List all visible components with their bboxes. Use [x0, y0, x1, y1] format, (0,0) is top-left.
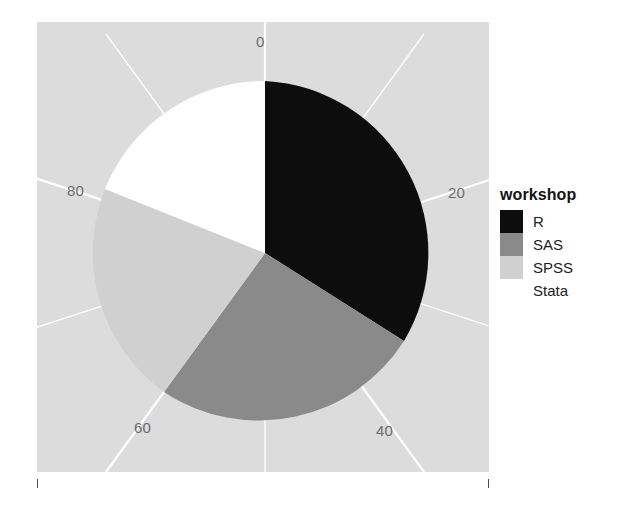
legend-label-stata: Stata — [533, 282, 568, 299]
legend-swatch-r — [500, 210, 523, 233]
axis-tick-label-40: 40 — [376, 422, 393, 439]
pie-slices — [93, 81, 429, 421]
axis-tick-label-0: 0 — [256, 33, 265, 50]
legend-item-sas[interactable]: SAS — [500, 233, 615, 256]
legend-swatch-spss — [500, 256, 523, 279]
axis-tick-label-80: 80 — [67, 182, 84, 199]
axis-tick-label-60: 60 — [134, 419, 151, 436]
legend-label-spss: SPSS — [533, 259, 573, 276]
legend-swatch-stata — [500, 279, 523, 302]
axis-tick-left — [37, 479, 38, 488]
legend: workshop R SAS SPSS Stata — [500, 186, 615, 302]
legend-title: workshop — [500, 186, 615, 204]
legend-item-r[interactable]: R — [500, 210, 615, 233]
legend-label-r: R — [533, 213, 544, 230]
legend-label-sas: SAS — [533, 236, 563, 253]
legend-swatch-sas — [500, 233, 523, 256]
pie-chart-svg — [37, 22, 489, 472]
legend-item-spss[interactable]: SPSS — [500, 256, 615, 279]
axis-tick-right — [488, 479, 489, 488]
plot-panel: 0 20 40 60 80 — [37, 22, 489, 472]
legend-item-stata[interactable]: Stata — [500, 279, 615, 302]
axis-tick-label-20: 20 — [448, 184, 465, 201]
chart-screenshot: 0 20 40 60 80 workshop R SAS SPSS Stata — [0, 0, 620, 510]
